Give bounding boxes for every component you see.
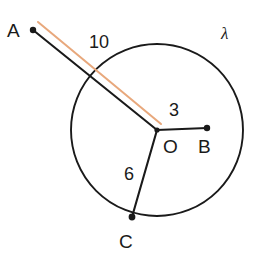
- length-label-ob: 3: [169, 101, 179, 119]
- circle-label-lambda: λ: [221, 25, 228, 42]
- point-b-dot: [204, 125, 210, 131]
- point-a-dot: [30, 27, 36, 33]
- point-o-dot: [154, 127, 159, 132]
- point-c-dot: [129, 214, 136, 221]
- segment-o-to-c: [132, 130, 157, 217]
- point-label-o: O: [163, 137, 178, 156]
- point-label-c: C: [119, 232, 133, 251]
- point-label-b: B: [198, 137, 211, 156]
- geometry-diagram: A B C O λ 10 3 6: [0, 0, 274, 258]
- point-label-a: A: [7, 21, 20, 40]
- geometry-canvas: [0, 0, 274, 258]
- length-label-ao: 10: [89, 33, 109, 51]
- segment-o-to-b: [157, 128, 207, 130]
- length-label-oc: 6: [124, 165, 134, 183]
